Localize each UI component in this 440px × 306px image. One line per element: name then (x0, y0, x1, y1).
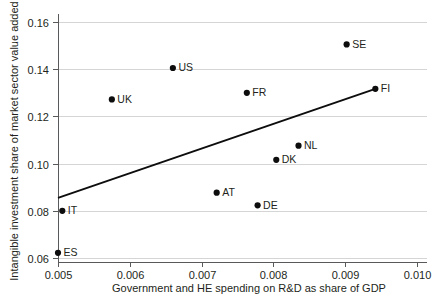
y-axis-title: Intangible investment share of market se… (8, 1, 20, 280)
data-point-fr (244, 90, 250, 96)
gridlines-group (58, 23, 427, 259)
y-tick-labels-group: 0.060.080.100.120.140.16 (28, 17, 49, 265)
data-point-de (255, 202, 261, 208)
x-tick-label: 0.008 (260, 269, 288, 281)
x-tick-label: 0.007 (189, 269, 217, 281)
x-tick-label: 0.006 (117, 269, 145, 281)
data-point-nl (295, 143, 301, 149)
scatter-plot: 0.060.080.100.120.140.16 0.0050.0060.007… (0, 0, 440, 306)
data-point-at (214, 190, 220, 196)
data-point-label-dk: DK (282, 153, 297, 165)
data-point-label-us: US (178, 61, 193, 73)
data-point-se (344, 41, 350, 47)
data-point-it (59, 208, 65, 214)
x-axis-title: Government and HE spending on R&D as sha… (112, 282, 386, 294)
data-point-dk (273, 157, 279, 163)
tick-marks-group (53, 23, 418, 268)
data-point-label-se: SE (352, 38, 366, 50)
y-tick-label: 0.08 (28, 206, 49, 218)
data-point-uk (109, 96, 115, 102)
data-points-group: ESITUKUSATFRDEDKNLSEFI (55, 38, 390, 258)
y-tick-label: 0.14 (28, 64, 49, 76)
data-point-es (55, 250, 61, 256)
data-point-label-uk: UK (117, 93, 132, 105)
y-tick-label: 0.06 (28, 253, 49, 265)
x-tick-label: 0.010 (404, 269, 432, 281)
data-point-us (170, 65, 176, 71)
chart-figure: 0.060.080.100.120.140.16 0.0050.0060.007… (0, 0, 440, 306)
x-tick-labels-group: 0.0050.0060.0070.0080.0090.010 (45, 269, 432, 281)
trendline-group (58, 89, 375, 198)
axes-group (58, 14, 427, 263)
x-tick-label: 0.009 (332, 269, 360, 281)
data-point-label-de: DE (263, 199, 278, 211)
y-tick-label: 0.16 (28, 17, 49, 29)
data-point-label-nl: NL (304, 139, 318, 151)
data-point-label-it: IT (68, 204, 78, 216)
x-tick-label: 0.005 (45, 269, 73, 281)
data-point-label-fi: FI (381, 82, 390, 94)
data-point-fi (372, 86, 378, 92)
data-point-label-es: ES (64, 246, 78, 258)
y-tick-label: 0.12 (28, 111, 49, 123)
y-tick-label: 0.10 (28, 159, 49, 171)
trendline (58, 89, 375, 198)
data-point-label-at: AT (222, 186, 235, 198)
data-point-label-fr: FR (252, 86, 266, 98)
